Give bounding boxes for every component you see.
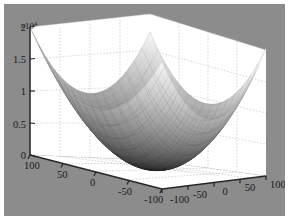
y-tick-label: 100 [24, 160, 40, 171]
z-tick [30, 59, 35, 60]
z-tick-label: 2 [21, 22, 26, 33]
x-tick-label: 0 [222, 186, 227, 197]
y-tick-label: 0 [90, 177, 95, 188]
surface-plot-axes: ×104 2 1.5 1 0.5 0 100 50 0 -50 -100 -10… [4, 4, 285, 216]
y-tick [61, 164, 63, 168]
y-tick-label: -50 [118, 186, 132, 197]
y-tick [28, 155, 30, 159]
x-tick-label: 100 [270, 179, 285, 190]
x-tick-label: -100 [170, 194, 189, 205]
z-tick-label: 1.5 [13, 54, 26, 65]
surface-plot-svg: ×104 2 1.5 1 0.5 0 100 50 0 -50 -100 -10… [4, 4, 285, 216]
figure-window: ×104 2 1.5 1 0.5 0 100 50 0 -50 -100 -10… [0, 0, 289, 220]
y-tick [127, 181, 129, 185]
y-tick-label: -100 [144, 194, 163, 205]
y-tick-label: 50 [57, 169, 68, 180]
x-tick-label: -50 [193, 189, 207, 200]
z-tick [30, 123, 35, 124]
z-tick-labels: 2 1.5 1 0.5 0 [13, 22, 26, 161]
z-tick-label: 1 [21, 86, 26, 97]
x-tick-label: 50 [245, 182, 256, 193]
z-tick-label: 0.5 [13, 119, 26, 130]
y-tick [94, 172, 96, 176]
z-axis-exponent-power: 4 [34, 20, 38, 27]
